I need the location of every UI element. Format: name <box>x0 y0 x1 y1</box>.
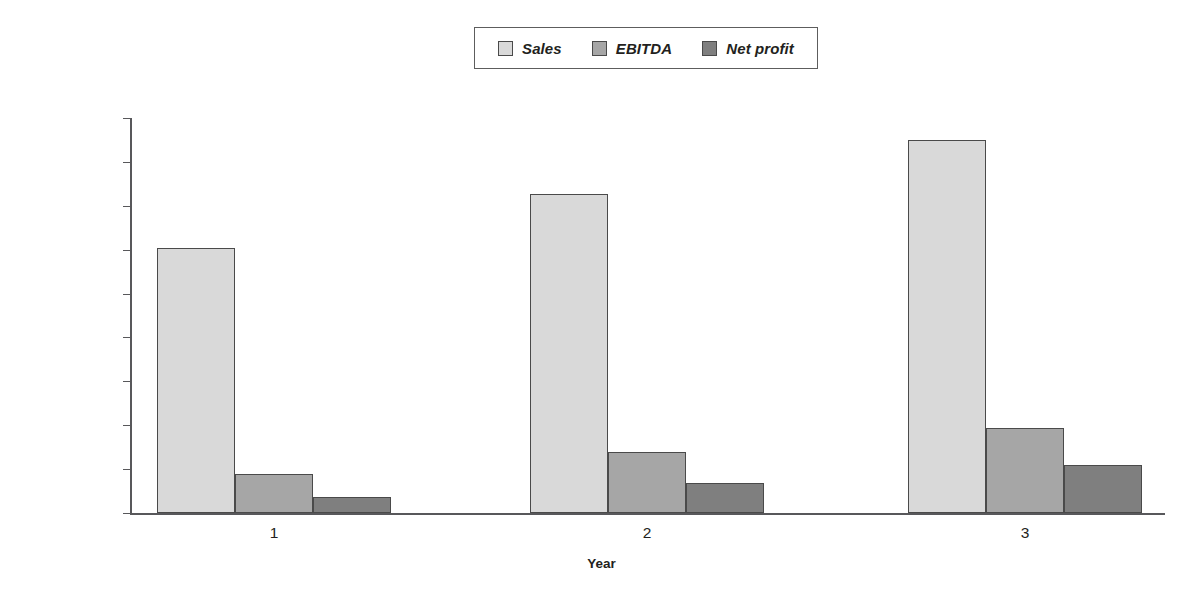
legend-label-ebitda: EBITDA <box>616 40 672 57</box>
y-axis-tick <box>123 513 130 514</box>
legend-swatch-net-profit-icon <box>702 41 717 56</box>
chart-legend: Sales EBITDA Net profit <box>474 27 818 69</box>
bar-net-profit-year-1[interactable] <box>313 497 391 513</box>
legend-entry-sales: Sales <box>498 40 562 57</box>
legend-swatch-ebitda-icon <box>592 41 607 56</box>
y-axis-tick <box>123 206 130 207</box>
x-axis-tick-label-2: 2 <box>627 524 667 542</box>
legend-entry-ebitda: EBITDA <box>592 40 672 57</box>
plot-area: $0$100,000$200,000$300,000$400,000$500,0… <box>130 118 1165 513</box>
x-axis-tick-label-3: 3 <box>1005 524 1045 542</box>
y-axis-tick <box>123 162 130 163</box>
legend-label-net-profit: Net profit <box>726 40 794 57</box>
y-axis-tick <box>123 250 130 251</box>
bar-chart: Sales EBITDA Net profit $0$100,000$200,0… <box>0 0 1203 612</box>
bar-net-profit-year-2[interactable] <box>686 483 764 513</box>
bar-sales-year-3[interactable] <box>908 140 986 513</box>
bar-ebitda-year-3[interactable] <box>986 428 1064 513</box>
legend-swatch-sales-icon <box>498 41 513 56</box>
y-axis-tick <box>123 469 130 470</box>
bar-sales-year-2[interactable] <box>530 194 608 513</box>
y-axis-tick <box>123 337 130 338</box>
bar-sales-year-1[interactable] <box>157 248 235 513</box>
bar-ebitda-year-1[interactable] <box>235 474 313 513</box>
y-axis-tick <box>123 381 130 382</box>
bar-ebitda-year-2[interactable] <box>608 452 686 513</box>
legend-label-sales: Sales <box>522 40 562 57</box>
y-axis-tick <box>123 118 130 119</box>
x-axis-line <box>130 513 1165 515</box>
bar-net-profit-year-3[interactable] <box>1064 465 1142 513</box>
y-axis-line <box>130 118 132 514</box>
y-axis-tick <box>123 294 130 295</box>
y-axis-tick <box>123 425 130 426</box>
x-axis-tick-label-1: 1 <box>254 524 294 542</box>
legend-entry-net-profit: Net profit <box>702 40 794 57</box>
x-axis-title: Year <box>0 556 1203 571</box>
